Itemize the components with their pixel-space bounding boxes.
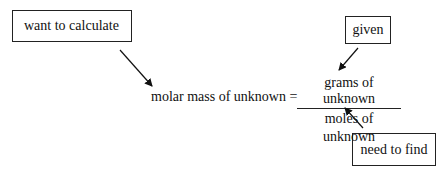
arrow-calc-to-lhs-icon — [120, 50, 152, 86]
arrows-layer — [0, 0, 447, 175]
arrow-given-to-numerator-icon — [339, 48, 358, 70]
arrow-find-to-denominator-icon — [345, 108, 363, 128]
